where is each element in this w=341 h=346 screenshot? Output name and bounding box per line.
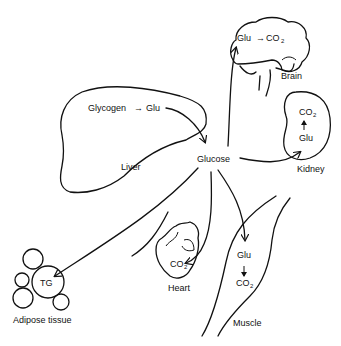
brain-reaction-to: CO	[266, 33, 280, 43]
glucose-center-label: Glucose	[197, 154, 230, 164]
kidney-reaction-to: CO	[299, 107, 313, 117]
muscle-label: Muscle	[233, 318, 262, 328]
arrow-glucose-to-muscle	[218, 170, 245, 240]
liver-lower-edge-line	[132, 212, 168, 256]
arrow-liver-to-glucose	[166, 108, 205, 142]
kidney-outline-icon	[284, 92, 331, 160]
brain-label: Brain	[281, 71, 302, 81]
brain-outline-icon	[231, 18, 310, 72]
liver-label: Liver	[121, 162, 141, 172]
brain-reaction-arrow: →	[256, 33, 265, 43]
fat-cell-icon	[13, 288, 33, 308]
brain-reaction-subscript: 2	[281, 38, 285, 44]
kidney-label: Kidney	[297, 164, 325, 174]
brain-reaction-from: Glu	[237, 33, 251, 43]
muscle-outline-left	[202, 196, 276, 336]
kidney-organ: CO 2 Glu Kidney	[284, 92, 331, 174]
liver-reaction-to: Glu	[146, 103, 160, 113]
arrow-glucose-to-kidney	[240, 152, 300, 162]
heart-organ: CO 2 Heart	[156, 222, 199, 293]
fat-cell-icon	[23, 249, 43, 269]
muscle-outline-right	[218, 198, 290, 336]
muscle-reaction-from: Glu	[237, 250, 251, 260]
adipose-product: TG	[40, 278, 53, 288]
fat-cell-icon	[15, 273, 29, 287]
heart-product-subscript: 2	[184, 264, 188, 270]
heart-outline-icon	[156, 222, 199, 278]
brain-organ: Glu → CO 2 Brain	[231, 18, 310, 97]
liver-reaction-arrow: →	[134, 103, 143, 113]
adipose-tissue: TG Adipose tissue	[13, 249, 72, 325]
liver-organ: Glycogen → Glu Liver	[60, 87, 206, 193]
liver-reaction-from: Glycogen	[88, 103, 126, 113]
kidney-reaction-from: Glu	[299, 133, 313, 143]
kidney-reaction-subscript: 2	[313, 112, 317, 118]
muscle-reaction-to: CO	[236, 278, 250, 288]
glucose-metabolism-diagram: Glu → CO 2 Brain Glycogen → Glu Liver CO…	[0, 0, 341, 346]
adipose-label: Adipose tissue	[13, 315, 72, 325]
flow-arrows	[55, 48, 300, 276]
heart-product: CO	[170, 259, 184, 269]
muscle-organ: Glu CO 2 Muscle	[202, 196, 290, 336]
heart-label: Heart	[168, 283, 191, 293]
muscle-reaction-subscript: 2	[250, 283, 254, 289]
